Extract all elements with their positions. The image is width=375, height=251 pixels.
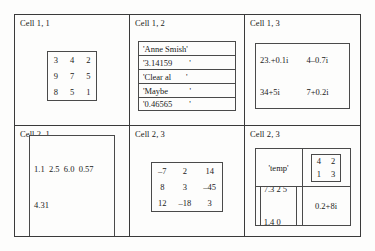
matrix-cell: 5 xyxy=(64,84,80,101)
cell-2-1: Cell 2, 1 1.1 2.5 6.0 0.57 4.31 xyxy=(15,126,130,237)
cell-content: –7 2 14 8 3 –45 12 –18 3 xyxy=(130,141,244,235)
cell-content: 1.1 2.5 6.0 0.57 4.31 xyxy=(15,141,129,235)
vector-line: 7.3 2 5 xyxy=(264,187,294,195)
matrix-row: 3 4 2 xyxy=(47,52,97,69)
cell-label: Cell 2, 3 xyxy=(135,129,239,140)
nested-cell-array: 'temp' 4 2 1 3 xyxy=(255,148,351,226)
matrix-row: –7 2 14 xyxy=(152,163,223,180)
matrix-cell: –18 xyxy=(173,195,198,212)
matrix-cell: 4 xyxy=(311,154,326,168)
matrix-cell: 1 xyxy=(311,168,326,182)
cell-label: Cell 1, 3 xyxy=(250,18,355,29)
nested-cell-bottom-left: 7.3 2 5 1.4 0 xyxy=(256,187,303,225)
matrix-cell: 8 xyxy=(47,84,64,101)
cell-1-3: Cell 1, 3 23.+0.1i 4–0.7i 34+5i 7+0.2i xyxy=(245,15,360,126)
cell-label: Cell 1, 2 xyxy=(135,18,239,29)
matrix-row: 12 –18 3 xyxy=(152,195,223,212)
string-item: 'Maybe ' xyxy=(138,83,236,97)
nested-cell-top-right: 4 2 1 3 xyxy=(303,149,350,187)
matrix-row: 8 5 1 xyxy=(47,84,97,101)
matrix-cell: 14 xyxy=(197,163,222,180)
complex-value: 4–0.7i xyxy=(303,44,350,76)
cell-content: 3 4 2 9 7 5 8 5 1 xyxy=(15,30,129,123)
matrix-cell: 4 xyxy=(64,52,80,69)
string-item: 'Clear al ' xyxy=(138,69,236,83)
string-item: 'Anne Smish' xyxy=(138,41,236,55)
matrix-cell: 5 xyxy=(80,68,97,84)
matrix-3x3: –7 2 14 8 3 –45 12 –18 3 xyxy=(151,162,223,212)
complex-value: 7+0.2i xyxy=(303,76,350,108)
matrix-cell: 2 xyxy=(173,163,198,180)
complex-grid: 23.+0.1i 4–0.7i 34+5i 7+0.2i xyxy=(256,44,349,108)
matrix-3x3: 3 4 2 9 7 5 8 5 1 xyxy=(47,51,98,101)
cell-content: 'temp' 4 2 1 3 xyxy=(245,141,360,235)
cell-2-2: Cell 2, 3 –7 2 14 8 3 –45 12 –18 xyxy=(130,126,245,237)
matrix-row: 4 2 xyxy=(311,154,341,168)
string-item: '3.14159 ' xyxy=(138,55,236,69)
cell-label: Cell 2, 3 xyxy=(250,129,355,140)
complex-value: 23.+0.1i xyxy=(256,44,303,76)
matrix-cell: 2 xyxy=(326,154,341,168)
cell-array-grid: Cell 1, 1 3 4 2 9 7 5 8 5 xyxy=(14,14,361,237)
matrix-cell: 3 xyxy=(47,52,64,69)
vector-line: 1.1 2.5 6.0 0.57 xyxy=(34,163,110,175)
matrix-cell: 9 xyxy=(47,68,64,84)
numeric-vector: 7.3 2 5 1.4 0 xyxy=(260,187,298,225)
cell-2-3: Cell 2, 3 'temp' 4 2 1 xyxy=(245,126,360,237)
string-value: 'temp' xyxy=(268,163,288,173)
string-list: 'Anne Smish' '3.14159 ' 'Clear al ' 'May… xyxy=(138,41,236,111)
cell-1-2: Cell 1, 2 'Anne Smish' '3.14159 ' 'Clear… xyxy=(130,15,245,126)
vector-line: 4.31 xyxy=(34,199,110,211)
matrix-cell: –7 xyxy=(152,163,173,180)
nested-cell-bottom-right: 0.2+8i xyxy=(303,187,350,225)
numeric-vector: 1.1 2.5 6.0 0.57 4.31 xyxy=(29,135,115,236)
matrix-cell: 3 xyxy=(197,195,222,212)
matrix-row: 1 3 xyxy=(311,168,341,182)
cell-content: 'Anne Smish' '3.14159 ' 'Clear al ' 'May… xyxy=(130,30,244,123)
diagram-canvas: Cell 1, 1 3 4 2 9 7 5 8 5 xyxy=(0,0,375,251)
cell-content: 23.+0.1i 4–0.7i 34+5i 7+0.2i xyxy=(245,30,360,123)
cell-1-1: Cell 1, 1 3 4 2 9 7 5 8 5 xyxy=(15,15,130,126)
matrix-cell: 3 xyxy=(326,168,341,182)
matrix-row: 9 7 5 xyxy=(47,68,97,84)
string-item: '0.46565 ' xyxy=(138,97,236,111)
matrix-cell: 2 xyxy=(80,52,97,69)
complex-value: 0.2+8i xyxy=(315,201,337,211)
nested-cell-top-left: 'temp' xyxy=(256,149,303,187)
complex-matrix-2x2: 23.+0.1i 4–0.7i 34+5i 7+0.2i xyxy=(255,43,350,109)
matrix-cell: –45 xyxy=(197,179,222,195)
matrix-2x2: 4 2 1 3 xyxy=(311,154,342,182)
matrix-cell: 1 xyxy=(80,84,97,101)
complex-value: 34+5i xyxy=(256,76,303,108)
matrix-cell: 7 xyxy=(64,68,80,84)
matrix-cell: 3 xyxy=(173,179,198,195)
matrix-cell: 8 xyxy=(152,179,173,195)
matrix-cell: 12 xyxy=(152,195,173,212)
cell-label: Cell 1, 1 xyxy=(20,18,124,29)
matrix-row: 8 3 –45 xyxy=(152,179,223,195)
vector-line: 1.4 0 xyxy=(264,217,294,226)
